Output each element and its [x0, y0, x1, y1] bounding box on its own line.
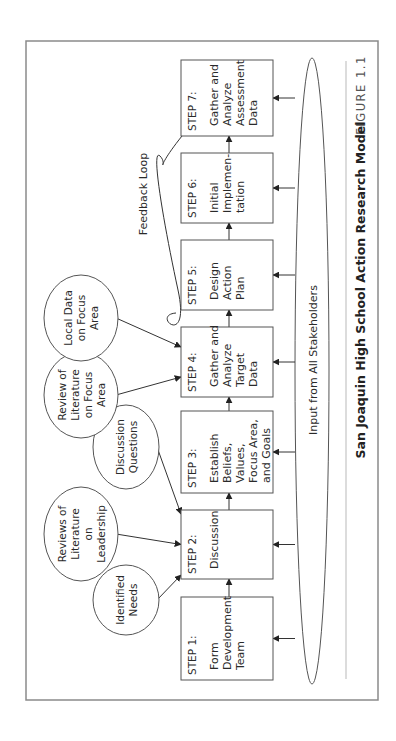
input-text: Literature: [69, 508, 81, 559]
step-text: Gather and: [208, 64, 221, 126]
input-text: Discussion: [114, 419, 126, 475]
step-text: Initial: [208, 183, 221, 213]
step-text: Form: [208, 642, 221, 670]
step-text: Target: [234, 352, 247, 388]
step-7-box: STEP 7:Gather andAnalyzeAssessmentData: [181, 59, 273, 136]
step-text: Establish: [208, 433, 221, 483]
step-text: Design: [208, 262, 221, 300]
input-text: Literature: [69, 369, 81, 420]
input-arrow: [157, 447, 181, 514]
step-text: Gather and: [208, 325, 221, 387]
input-arrow: [157, 575, 181, 600]
step-text: Focus Area,: [247, 419, 260, 483]
input-text: Leadership: [95, 505, 107, 563]
input-arrow: [116, 534, 181, 545]
step-label: STEP 2:: [186, 534, 198, 574]
input-oval-5: Local Dataon FocusArea: [44, 275, 118, 361]
input-text: Needs: [127, 584, 139, 617]
step-2-box: STEP 2:Discussion: [181, 510, 273, 579]
step-text: tation: [234, 181, 247, 213]
step-4-box: STEP 4:Gather andAnalyzeTargetData: [181, 325, 273, 397]
step-label: STEP 6:: [186, 178, 198, 218]
step-text: Plan: [234, 277, 247, 300]
input-text: on Focus: [82, 372, 94, 418]
input-text: on Focus: [75, 295, 87, 341]
input-text: Area: [88, 306, 100, 330]
step-text: Values,: [234, 444, 247, 483]
input-arrow: [116, 377, 181, 395]
stakeholders-label: Input from All Stakeholders: [307, 285, 320, 435]
step-5-box: STEP 5:DesignActionPlan: [181, 240, 273, 310]
step-text: Analyze: [221, 82, 234, 126]
input-text: Questions: [127, 421, 139, 473]
step-label: STEP 5:: [186, 265, 198, 305]
step-text: Discussion: [208, 510, 221, 569]
input-oval-4: Review ofLiteratureon FocusArea: [44, 352, 118, 438]
input-text: Identified: [114, 575, 126, 625]
step-text: Assessment: [234, 59, 247, 126]
step-label: STEP 7:: [186, 91, 198, 131]
step-label: STEP 3:: [186, 448, 198, 488]
step-text: Data: [247, 361, 260, 387]
input-text: Review of: [56, 369, 68, 420]
step-text: and Goals: [260, 428, 273, 483]
step-text: Beliefs,: [221, 443, 234, 483]
step-label: STEP 4:: [186, 352, 198, 392]
step-1-box: STEP 1:FormDevelopmentTeam: [181, 595, 273, 680]
step-label: STEP 1:: [186, 635, 198, 675]
action-research-diagram: STEP 1:FormDevelopmentTeamSTEP 2:Discuss…: [0, 0, 396, 741]
feedback-loop-curve: [157, 136, 182, 325]
input-text: on: [82, 527, 94, 540]
step-3-box: STEP 3:EstablishBeliefs,Values,Focus Are…: [181, 411, 273, 493]
step-text: Development: [221, 595, 234, 670]
input-text: Local Data: [62, 290, 74, 346]
input-text: Area: [95, 383, 107, 407]
step-text: Analyze: [221, 343, 234, 387]
input-text: Reviews of: [56, 506, 68, 563]
feedback-loop-label: Feedback Loop: [137, 153, 150, 235]
step-6-box: STEP 6:InitialImplemen-tation: [181, 153, 273, 223]
step-text: Action: [221, 266, 234, 300]
figure-title: San Joaquin High School Action Research …: [353, 121, 368, 458]
input-oval-1: IdentifiedNeeds: [93, 565, 159, 635]
step-text: Team: [234, 641, 247, 671]
step-text: Implemen-: [221, 154, 234, 213]
input-arrow: [116, 318, 181, 347]
step-text: Data: [247, 100, 260, 126]
input-oval-2: Reviews ofLiteratureonLeadership: [44, 487, 118, 581]
